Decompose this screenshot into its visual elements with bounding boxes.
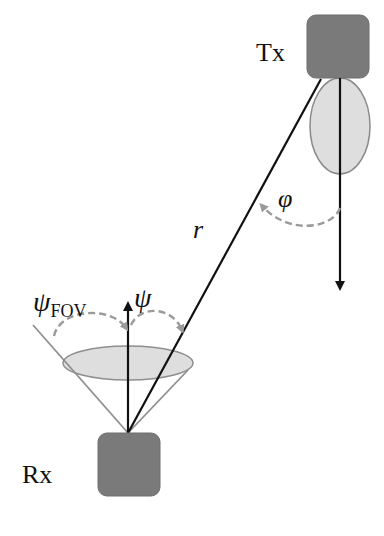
distance-label: r	[193, 217, 203, 243]
psi-fov-label: ψFOV	[33, 288, 86, 316]
psi-fov-symbol: ψ	[33, 286, 50, 317]
phi-angle-arc	[262, 206, 340, 226]
phi-label: φ	[278, 186, 292, 212]
psi-fov-subscript: FOV	[50, 301, 86, 321]
los-link-line	[128, 79, 321, 433]
diagram-canvas: Tx Rx r φ ψ ψFOV	[0, 0, 384, 536]
tx-device	[307, 15, 369, 78]
tx-label: Tx	[256, 40, 285, 66]
psi-label: ψ	[134, 284, 151, 312]
rx-label: Rx	[22, 462, 52, 488]
rx-device	[98, 433, 160, 496]
diagram-graphics	[0, 0, 384, 536]
psi-angle-arc	[131, 311, 182, 330]
